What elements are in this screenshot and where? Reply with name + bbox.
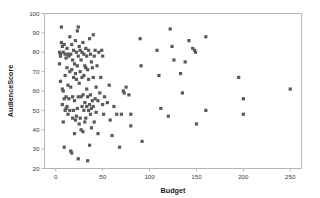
data-point (92, 105, 95, 108)
data-point (83, 101, 86, 104)
data-point (62, 120, 65, 123)
data-point (95, 64, 98, 67)
data-point (97, 51, 100, 54)
plot-frame (45, 14, 302, 169)
data-point (76, 64, 79, 67)
data-point (64, 53, 67, 56)
data-point (106, 101, 109, 104)
data-point (63, 43, 66, 46)
data-point (155, 49, 158, 52)
y-axis-title: AudienceScore (6, 65, 15, 117)
data-point (79, 58, 82, 61)
data-point (83, 120, 86, 123)
data-point (101, 103, 104, 106)
data-point (80, 105, 83, 108)
data-point (60, 25, 63, 28)
data-point (65, 66, 68, 69)
data-point (115, 113, 118, 116)
data-point (109, 118, 112, 121)
data-point (71, 95, 74, 98)
data-point (82, 74, 85, 77)
data-point (77, 95, 80, 98)
data-point (157, 74, 160, 77)
data-point (81, 130, 84, 133)
data-point (58, 62, 61, 65)
data-point (289, 87, 292, 90)
data-point (71, 117, 74, 120)
data-point (108, 84, 111, 87)
data-point (68, 109, 71, 112)
data-point (194, 51, 197, 54)
data-point (181, 91, 184, 94)
data-point (74, 72, 77, 75)
data-point (103, 95, 106, 98)
data-point (76, 29, 79, 32)
data-point (69, 86, 72, 89)
data-point (84, 47, 87, 50)
data-point (79, 117, 82, 120)
data-point (167, 115, 170, 118)
data-point (70, 68, 73, 71)
data-point (94, 97, 97, 100)
data-point (63, 146, 66, 149)
data-point (59, 55, 62, 58)
data-point (75, 78, 78, 81)
data-point (99, 76, 102, 79)
data-point (66, 113, 69, 116)
data-point (94, 111, 97, 114)
data-point (120, 113, 123, 116)
y-tick-label: 30 (33, 145, 40, 152)
data-point (60, 41, 63, 44)
data-point (65, 105, 68, 108)
data-point (75, 115, 78, 118)
data-point (195, 122, 198, 125)
data-point (88, 144, 91, 147)
data-point (62, 89, 65, 92)
data-point (81, 41, 84, 44)
data-point (77, 25, 80, 28)
data-point (75, 51, 78, 54)
data-point (101, 55, 104, 58)
y-tick-label: 20 (33, 165, 40, 172)
data-point (78, 82, 81, 85)
x-axis-title: Budget (161, 186, 186, 195)
data-point (127, 93, 130, 96)
data-point (73, 99, 76, 102)
data-point (87, 78, 90, 81)
y-tick-label: 80 (33, 48, 40, 55)
data-point (123, 91, 126, 94)
data-point (59, 80, 62, 83)
data-point (172, 58, 175, 61)
x-tick-label: 200 (238, 173, 249, 180)
data-point (91, 99, 94, 102)
data-point (70, 43, 73, 46)
data-point (129, 124, 132, 127)
data-point (204, 109, 207, 112)
data-point (96, 132, 99, 135)
data-point (65, 47, 68, 50)
data-point (74, 118, 77, 121)
data-point (78, 122, 81, 125)
data-point (89, 113, 92, 116)
y-tick-label: 70 (33, 68, 40, 75)
data-point (90, 126, 93, 129)
data-point (140, 140, 143, 143)
data-point (73, 132, 76, 135)
data-point (94, 49, 97, 52)
scatter-chart-figure: 2030405060708090100 050100150200250 Budg… (0, 0, 320, 198)
data-point (73, 62, 76, 65)
data-point (70, 151, 73, 154)
data-point (64, 56, 67, 59)
data-point (85, 87, 88, 90)
data-point (139, 37, 142, 40)
data-point (159, 107, 162, 110)
data-point (77, 157, 80, 160)
data-point (72, 76, 75, 79)
data-point (169, 27, 172, 30)
data-point (86, 68, 89, 71)
data-point (82, 53, 85, 56)
y-axis-ticks: 2030405060708090100 (29, 10, 44, 172)
data-point (86, 95, 89, 98)
data-point (92, 33, 95, 36)
data-point (96, 99, 99, 102)
